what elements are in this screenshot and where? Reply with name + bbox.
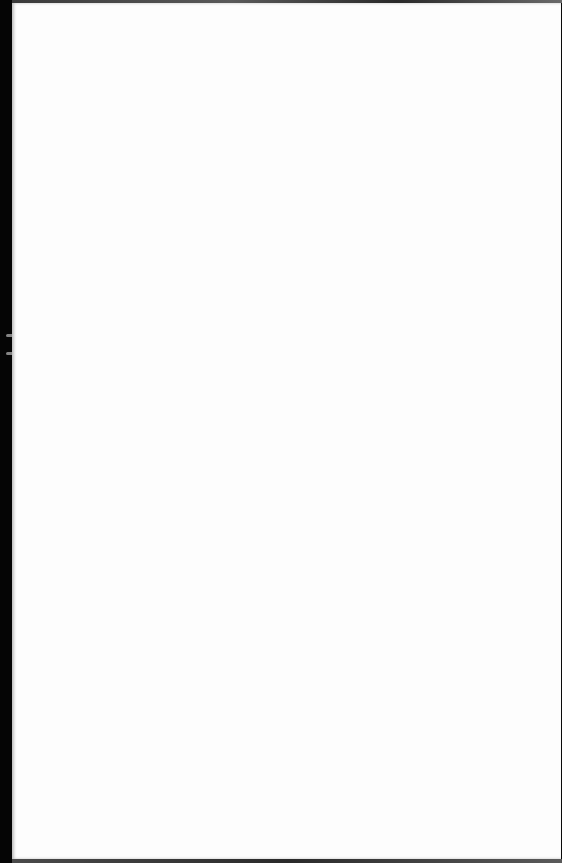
blank-page [12,3,561,859]
scanned-document [0,0,562,863]
scanner-bottom-edge [12,859,562,863]
scanner-left-edge [0,0,12,863]
